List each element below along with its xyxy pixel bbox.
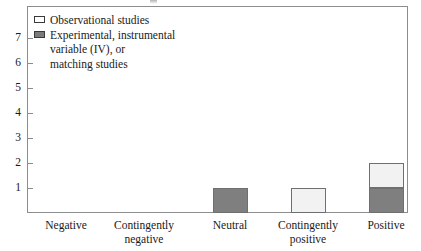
y-tick-1 <box>27 188 33 189</box>
y-tick-5 <box>27 88 33 89</box>
y-tick-label-4: 4 <box>0 107 21 118</box>
bar-chart-figure: 1 2 3 4 5 6 7 Negative Contingently nega… <box>0 0 421 251</box>
bar-contingently-positive-observational <box>291 188 326 213</box>
y-tick-label-3: 3 <box>0 132 21 143</box>
x-label-positive-line1: Positive <box>367 219 404 231</box>
clipped-title-descender <box>150 0 157 4</box>
bar-neutral-experimental <box>213 188 248 213</box>
y-tick-label-2: 2 <box>0 157 21 168</box>
chart-legend: Observational studies Experimental, inst… <box>34 13 175 71</box>
x-label-neutral: Neutral <box>191 218 269 232</box>
y-tick-6 <box>27 63 33 64</box>
x-label-neutral-line1: Neutral <box>213 219 247 231</box>
y-tick-label-7: 7 <box>0 32 21 43</box>
legend-label-observational: Observational studies <box>50 14 149 26</box>
y-tick-label-1: 1 <box>0 182 21 193</box>
y-tick-label-5: 5 <box>0 82 21 93</box>
x-label-contingently-positive-line2: positive <box>290 233 326 245</box>
y-tick-7 <box>27 38 33 39</box>
y-tick-4 <box>27 113 33 114</box>
x-label-contingently-negative: Contingently negative <box>105 218 183 246</box>
legend-label-experimental-line2: variable (IV), or <box>34 42 175 57</box>
x-label-contingently-negative-line2: negative <box>125 233 164 245</box>
x-label-negative: Negative <box>27 218 105 232</box>
x-label-contingently-positive-line1: Contingently <box>278 219 338 231</box>
bar-positive-observational <box>369 163 404 188</box>
bar-positive-experimental <box>369 188 404 213</box>
x-label-negative-line1: Negative <box>45 219 87 231</box>
y-tick-label-6: 6 <box>0 57 21 68</box>
x-label-positive: Positive <box>347 218 421 232</box>
observational-swatch-icon <box>34 16 45 23</box>
legend-label-experimental: Experimental, instrumental <box>50 29 175 41</box>
x-label-contingently-positive: Contingently positive <box>269 218 347 246</box>
experimental-swatch-icon <box>34 31 45 38</box>
y-tick-2 <box>27 163 33 164</box>
y-tick-3 <box>27 138 33 139</box>
legend-label-experimental-line3: matching studies <box>34 57 175 72</box>
legend-item-observational: Observational studies <box>34 13 175 28</box>
legend-item-experimental: Experimental, instrumental <box>34 28 175 43</box>
x-label-contingently-negative-line1: Contingently <box>114 219 174 231</box>
